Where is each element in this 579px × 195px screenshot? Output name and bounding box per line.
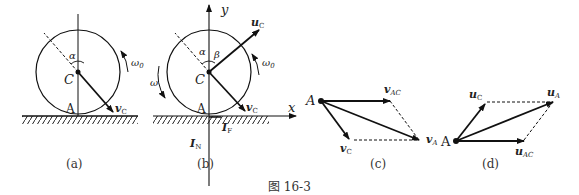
- origin-label: A: [440, 134, 451, 149]
- figure-16-3: α C A ω0 vC (a) y x α β C A uC vC ω0 ω I…: [0, 0, 579, 195]
- omega0-label: ω0: [262, 57, 275, 70]
- origin-dot: [453, 138, 459, 144]
- contact-label: A: [65, 102, 75, 116]
- alpha-label: α: [199, 46, 206, 57]
- vc-label: vC: [246, 101, 258, 115]
- uc-label: uC: [251, 16, 264, 30]
- panel-c: A vAC vC vA (c): [305, 83, 437, 171]
- ua-label: uA: [547, 86, 560, 100]
- diagram-canvas: α C A ω0 vC (a) y x α β C A uC vC ω0 ω I…: [0, 0, 579, 195]
- uac-label: uAC: [515, 145, 534, 159]
- caption-c: (c): [370, 157, 386, 171]
- origin-label: A: [305, 93, 315, 108]
- vac-label: vAC: [384, 83, 401, 97]
- uc-label: uC: [469, 88, 482, 102]
- center-dot: [76, 70, 81, 75]
- in-label: IN: [189, 137, 201, 151]
- x-axis-label: x: [288, 100, 296, 115]
- vc-label: vC: [340, 142, 352, 156]
- omega-label: ω: [150, 77, 158, 88]
- omega-arrow-icon: [158, 66, 165, 98]
- omega0-arrow-icon: [252, 54, 259, 75]
- velocity-vc-arrow: [209, 72, 245, 111]
- beta-label: β: [213, 49, 220, 60]
- y-axis-label: y: [220, 2, 229, 17]
- omega0-label: ω0: [131, 57, 144, 70]
- omega0-arrow-icon: [121, 51, 128, 72]
- caption-a: (a): [66, 157, 83, 171]
- panel-b: y x α β C A uC vC ω0 ω IF IN (b): [150, 2, 296, 186]
- center-label: C: [64, 72, 74, 87]
- center-label: C: [195, 72, 205, 87]
- panel-d: A uC uA uAC (d): [440, 86, 560, 171]
- ground-hatch: [22, 116, 138, 124]
- caption-b: (b): [197, 157, 214, 171]
- origin-dot: [318, 98, 324, 104]
- figure-caption: 图 16-3: [268, 180, 311, 194]
- velocity-vc-arrow: [78, 72, 113, 112]
- contact-label: A: [196, 102, 206, 116]
- caption-d: (d): [482, 157, 499, 171]
- vc-label: vC: [115, 102, 127, 116]
- va-label: vA: [426, 133, 437, 147]
- panel-a: α C A ω0 vC (a): [22, 14, 144, 171]
- alpha-label: α: [69, 50, 76, 61]
- center-dot: [207, 70, 212, 75]
